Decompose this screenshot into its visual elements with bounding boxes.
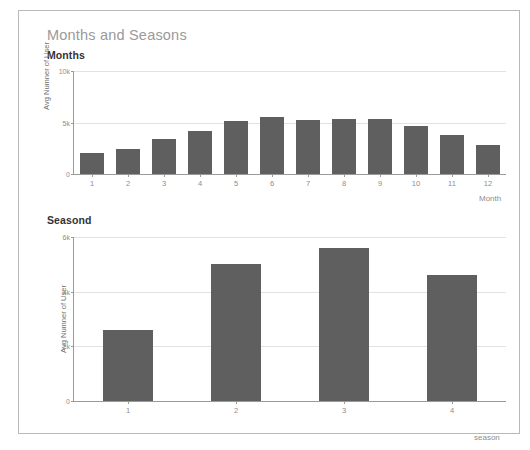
plot-area-seasons: 02k4k6k 1234 [73,237,506,402]
bar-series-seasons: 1234 [74,237,506,401]
x-tick-mark [452,401,453,404]
y-tick-label: 6k [63,234,70,241]
x-tick-mark [128,401,129,404]
x-axis-label-seasons: season [474,433,500,442]
bar[interactable] [211,264,261,401]
x-tick-label: 3 [342,406,346,415]
bar-group[interactable]: 2 [182,237,290,401]
x-tick-label: 4 [450,406,454,415]
x-tick-label: 1 [126,406,130,415]
x-tick-mark [236,401,237,404]
bar[interactable] [319,248,369,401]
y-tick-label: 2k [63,343,70,350]
bar[interactable] [103,330,153,401]
bar[interactable] [427,275,477,401]
bar-group[interactable]: 3 [290,237,398,401]
report-card: Months and Seasons Months Seasond Avg Nu… [18,10,520,434]
y-tick-label: 4k [63,288,70,295]
bar-group[interactable]: 4 [398,237,506,401]
y-tick-label: 0 [66,398,70,405]
x-tick-label: 2 [234,406,238,415]
y-axis-label-seasons: Avg Numner of User [59,237,69,402]
chart-seasons: Avg Numner of User 02k4k6k 1234 season [19,11,521,241]
x-tick-mark [344,401,345,404]
bar-group[interactable]: 1 [74,237,182,401]
y-tick-mark [71,401,74,402]
